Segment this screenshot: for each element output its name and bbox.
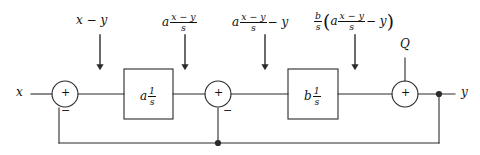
- signal-label-4-outer-fraction: bs: [314, 11, 322, 31]
- block-a-gain: a: [140, 89, 147, 103]
- signal-label-4-gain: a: [330, 14, 337, 28]
- summing-junction-1-plus: +: [61, 86, 70, 99]
- signal-label-3-gain: a: [232, 15, 239, 29]
- signal-label-4-inner-denominator: s: [338, 22, 365, 32]
- junction-dot-output: [436, 91, 442, 97]
- summing-junction-1-minus: −: [61, 104, 70, 117]
- signal-label-3-tail: − y: [268, 15, 289, 29]
- summing-junction-2-plus: +: [214, 86, 223, 99]
- signal-label-4-close-paren: ): [387, 15, 394, 28]
- signal-label-after-block-a: ax − ys: [162, 12, 198, 32]
- block-a-transfer: 1s: [148, 86, 156, 106]
- disturbance-label: Q: [400, 38, 410, 50]
- signal-label-2-gain: a: [162, 15, 169, 29]
- signal-label-2-denominator: s: [170, 23, 197, 33]
- signal-label-3-fraction: x − ys: [240, 12, 267, 32]
- block-a-transfer-denominator: s: [148, 97, 156, 107]
- signal-label-error: x − y: [76, 14, 107, 26]
- block-b-transfer: 1s: [313, 86, 321, 106]
- summing-junction-2-minus: −: [223, 104, 232, 117]
- signal-label-4-inner-fraction: x − ys: [338, 11, 365, 31]
- junction-dot-feedback: [215, 140, 221, 146]
- block-b-gain: b: [304, 89, 312, 103]
- block-diagram: x y Q + − + − + a1s b1s x − y ax − ys ax…: [0, 0, 480, 155]
- output-label: y: [461, 86, 468, 98]
- signal-label-after-block-b: bs(ax − ys− y): [313, 11, 394, 31]
- block-a-label: a1s: [124, 86, 173, 106]
- summing-junction-3-plus: +: [401, 86, 410, 99]
- signal-label-after-summer-2: ax − ys− y: [232, 12, 288, 32]
- block-b-transfer-denominator: s: [313, 97, 321, 107]
- block-b-label: b1s: [288, 86, 338, 106]
- signal-label-error-text: x − y: [76, 13, 107, 27]
- signal-label-3-denominator: s: [240, 23, 267, 33]
- signal-label-4-tail: − y: [366, 14, 387, 28]
- signal-label-4-outer-denominator: s: [314, 22, 322, 32]
- input-label: x: [16, 86, 23, 98]
- signal-label-2-fraction: x − ys: [170, 12, 197, 32]
